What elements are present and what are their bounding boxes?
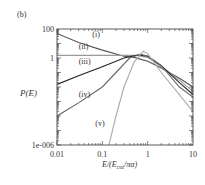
x-axis-label: E/(Ecut/πα) bbox=[101, 160, 137, 170]
x-tick-label: 1 bbox=[146, 150, 150, 159]
x-tick-label: 0.1 bbox=[97, 150, 107, 159]
x-tick-label: 0.01 bbox=[50, 150, 64, 159]
plot-area: (i)(ii)(iii)(iv)(v) bbox=[57, 30, 193, 145]
chart: (b) (i)(ii)(iii)(iv)(v) 0.010.11101e-006… bbox=[0, 0, 205, 185]
series-line-5 bbox=[109, 51, 193, 145]
axes: 0.010.11101e-0061100 bbox=[32, 25, 197, 159]
curve-label-5: (v) bbox=[95, 119, 105, 128]
y-tick-label: 100 bbox=[42, 25, 54, 34]
y-tick-label: 1e-006 bbox=[32, 141, 54, 150]
y-axis-label: P(E) bbox=[19, 88, 37, 98]
panel-label: (b) bbox=[17, 10, 27, 19]
curve-label-1: (i) bbox=[92, 30, 100, 39]
curve-label-2: (ii) bbox=[79, 42, 89, 51]
curve-label-4: (iv) bbox=[79, 90, 91, 99]
curve-label-3: (iii) bbox=[79, 57, 91, 66]
x-tick-label: 10 bbox=[189, 150, 197, 159]
y-tick-label: 1 bbox=[50, 54, 54, 63]
